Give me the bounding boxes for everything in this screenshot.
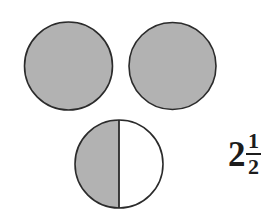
mixed-number-whole-part: 2 — [228, 137, 246, 172]
fraction-circles-diagram — [0, 0, 267, 212]
mixed-number-label: 2 1 2 — [228, 126, 267, 182]
circle-whole-1 — [25, 22, 113, 110]
fraction-denominator: 2 — [248, 156, 259, 178]
fraction-group: 1 2 — [246, 130, 261, 179]
figure-canvas: 2 1 2 — [0, 0, 267, 212]
fraction-numerator: 1 — [248, 130, 259, 152]
circle-half — [75, 120, 163, 208]
circle-whole-2 — [129, 23, 216, 110]
